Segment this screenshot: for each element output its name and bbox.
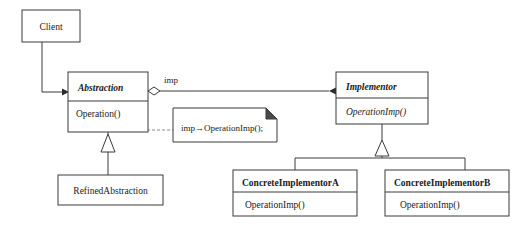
class-name-abstraction: Abstraction	[77, 83, 123, 93]
connector-concretes-to-implementor	[295, 124, 465, 170]
association-label-imp: imp	[164, 75, 179, 85]
uml-class-diagram: Client Abstraction Operation() RefinedAb…	[0, 0, 527, 226]
operation-abstraction-operation: Operation()	[76, 109, 120, 120]
class-name-concrete-implementor-a: ConcreteImplementorA	[242, 178, 339, 188]
connector-abstraction-to-implementor	[148, 87, 336, 95]
class-name-implementor: Implementor	[345, 82, 397, 92]
class-name-refined-abstraction: RefinedAbstraction	[73, 186, 148, 196]
note-text: imp→OperationImp();	[181, 123, 263, 133]
class-name-client: Client	[39, 22, 63, 32]
operation-implementor-operationimp: OperationImp()	[346, 107, 406, 118]
note-fold-corner	[266, 108, 277, 119]
operation-concrete-a-operationimp: OperationImp()	[245, 200, 305, 211]
operation-concrete-b-operationimp: OperationImp()	[400, 200, 460, 211]
connector-client-to-abstraction	[42, 42, 69, 96]
class-box-abstraction[interactable]	[68, 72, 148, 132]
class-name-concrete-implementor-b: ConcreteImplementorB	[394, 178, 491, 188]
diagram-canvas: Client Abstraction Operation() RefinedAb…	[0, 0, 527, 226]
connector-refined-to-abstraction	[101, 132, 115, 175]
